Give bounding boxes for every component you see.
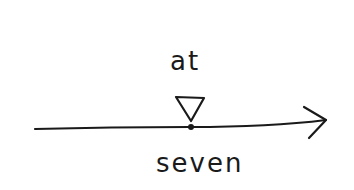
point-dot-icon xyxy=(188,124,194,130)
label-below: seven xyxy=(156,150,243,176)
timeline-line xyxy=(35,120,326,129)
label-above: at xyxy=(170,48,200,74)
diagram-canvas: at seven xyxy=(0,0,354,190)
triangle-marker-icon xyxy=(176,97,204,121)
